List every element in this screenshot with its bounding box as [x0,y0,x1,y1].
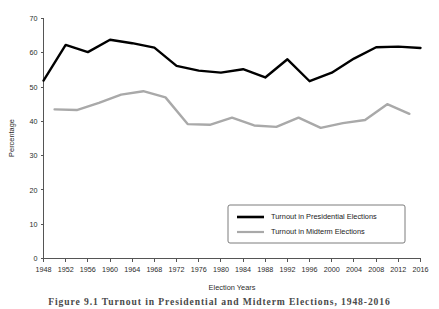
x-tick-label: 1980 [213,265,229,274]
x-tick-label: 1948 [36,265,52,274]
x-tick-label: 1988 [257,265,273,274]
y-tick-label: 20 [30,186,38,195]
x-tick-label: 2004 [346,265,362,274]
figure-caption: Figure 9.1 Turnout in Presidential and M… [0,296,439,307]
y-axis-title: Percentage [7,119,16,157]
y-tick-label: 0 [34,254,38,263]
y-tick-label: 40 [30,117,38,126]
x-axis-ticks: 1948195219561960196419681972197619801984… [36,259,429,274]
series-line-presidential [44,40,421,81]
y-tick-label: 50 [30,83,38,92]
y-tick-label: 30 [30,151,38,160]
x-tick-label: 2008 [368,265,384,274]
legend-label-midterm: Turnout in Midterm Elections [271,227,365,236]
y-tick-label: 70 [30,14,38,23]
x-tick-label: 1996 [302,265,318,274]
y-tick-label: 60 [30,48,38,57]
y-tick-label: 10 [30,220,38,229]
line-chart: 010203040506070 194819521956196019641968… [0,0,439,309]
data-series-group [44,40,421,128]
x-axis-title: Election Years [209,283,256,292]
x-tick-label: 1992 [279,265,295,274]
figure-container: 010203040506070 194819521956196019641968… [0,0,439,309]
x-tick-label: 1968 [146,265,162,274]
x-tick-label: 1960 [102,265,118,274]
x-tick-label: 1984 [235,265,251,274]
x-tick-label: 2000 [324,265,340,274]
series-line-midterm [55,91,410,128]
x-tick-label: 1976 [191,265,207,274]
x-tick-label: 1956 [80,265,96,274]
x-tick-label: 1952 [58,265,74,274]
x-tick-label: 1972 [169,265,185,274]
x-tick-label: 1964 [124,265,140,274]
legend-label-presidential: Turnout in Presidential Elections [271,212,377,221]
chart-legend: Turnout in Presidential ElectionsTurnout… [228,205,405,243]
x-tick-label: 2012 [390,265,406,274]
y-axis-ticks: 010203040506070 [30,14,44,263]
x-tick-label: 2016 [413,265,429,274]
